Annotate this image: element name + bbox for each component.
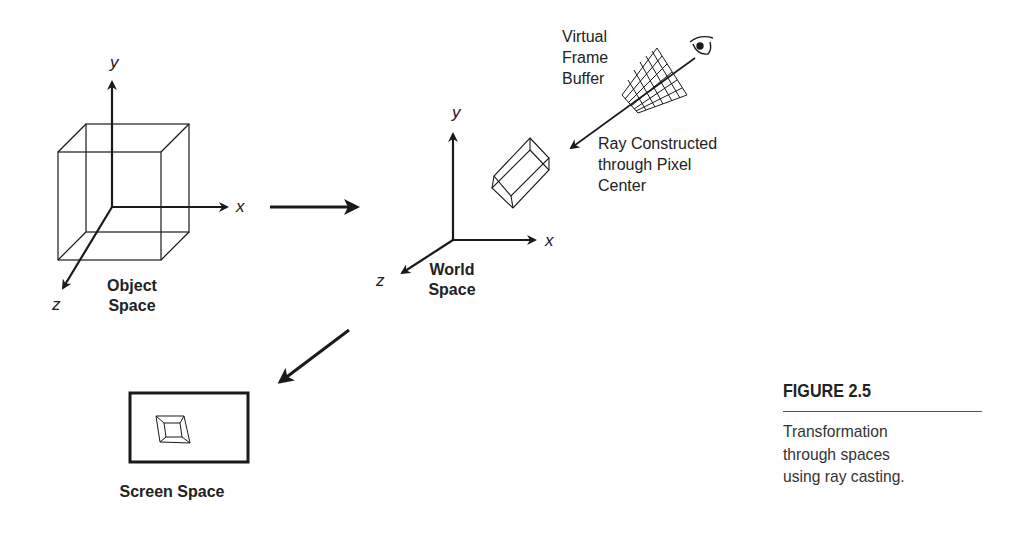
ray-label-line2: through Pixel — [598, 154, 717, 175]
world-box — [492, 138, 549, 208]
object-space-label: Object Space — [95, 276, 169, 316]
frame-buffer-label: Virtual Frame Buffer — [562, 26, 608, 89]
world-space-label-line1: World — [415, 260, 489, 280]
ray-label: Ray Constructed through Pixel Center — [598, 133, 717, 196]
object-space-label-line2: Space — [95, 296, 169, 316]
ray-label-line3: Center — [598, 175, 717, 196]
screen-projection — [156, 416, 190, 443]
transform-arrow-down-left — [280, 330, 349, 382]
object-cube — [58, 124, 189, 260]
eye-icon — [690, 37, 713, 54]
ray-label-line1: Ray Constructed — [598, 133, 717, 154]
figure-rule — [783, 411, 982, 412]
world-axis-y-label: y — [452, 102, 461, 123]
object-axes — [63, 82, 227, 288]
world-space-label-line2: Space — [415, 280, 489, 300]
frame-buffer-label-line1: Virtual — [562, 26, 608, 47]
figure-number: FIGURE 2.5 — [783, 380, 871, 402]
screen-space-label: Screen Space — [112, 482, 232, 502]
frame-buffer-label-line2: Frame — [562, 47, 608, 68]
world-axis-x-label: x — [545, 230, 554, 251]
object-axis-x-label: x — [236, 196, 245, 217]
object-space-label-line1: Object — [95, 276, 169, 296]
figure-caption: Transformation through spaces using ray … — [783, 421, 967, 489]
screen-rect — [130, 393, 248, 462]
figure-caption-line3: using ray casting. — [783, 466, 967, 489]
frame-buffer-label-line3: Buffer — [562, 68, 608, 89]
figure-caption-line2: through spaces — [783, 444, 967, 467]
object-axis-z-label: z — [52, 294, 61, 315]
world-axes — [402, 134, 535, 273]
world-axis-z-label: z — [376, 270, 385, 291]
object-axis-y-label: y — [110, 52, 119, 73]
figure-caption-line1: Transformation — [783, 421, 967, 444]
world-space-label: World Space — [415, 260, 489, 300]
